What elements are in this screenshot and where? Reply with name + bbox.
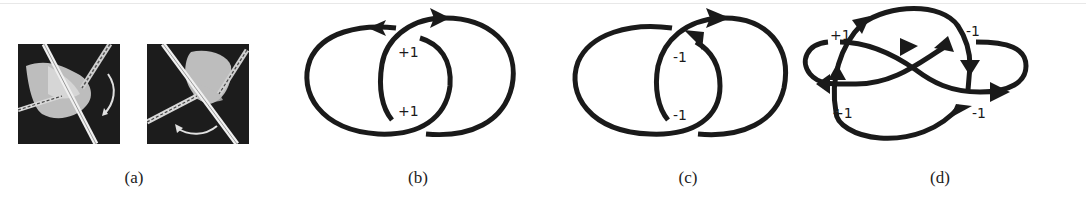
arrow-mid-left-icon xyxy=(900,38,918,56)
photo-a-right xyxy=(147,44,249,144)
crossing-label-top: +1 xyxy=(398,44,419,60)
photo-a-right-drawing xyxy=(147,44,249,144)
panel-b: +1 +1 (b) xyxy=(260,0,520,201)
caption-c: (c) xyxy=(679,168,698,188)
caption-b: (b) xyxy=(408,168,428,188)
crossing-label-bottom-right: -1 xyxy=(972,105,986,121)
crossing-label-bottom: -1 xyxy=(673,107,687,123)
panel-d: +1 -1 +1 -1 (d) xyxy=(800,0,1086,201)
crossing-label-top-right: -1 xyxy=(966,23,980,39)
arrow-left-loop-icon xyxy=(684,30,704,50)
panel-a: (a) xyxy=(0,0,260,201)
arrow-up-icon xyxy=(828,64,846,80)
arrow-bottom-right-icon xyxy=(950,104,972,118)
crossing-label-bottom-left: +1 xyxy=(832,105,853,121)
crossing-label-top: -1 xyxy=(673,49,687,65)
crossing-label-bottom: +1 xyxy=(398,103,419,119)
crossing-label-top-left: +1 xyxy=(830,27,851,43)
hopf-link-positive-diagram: +1 +1 xyxy=(260,0,520,201)
caption-d: (d) xyxy=(930,168,950,188)
hopf-link-negative-diagram: -1 -1 xyxy=(520,0,800,201)
caption-a: (a) xyxy=(125,168,144,188)
arrow-right-icon xyxy=(990,82,1010,102)
arrow-right-down-icon xyxy=(960,60,980,76)
arrow-left-icon xyxy=(816,74,830,94)
photo-a-left-drawing xyxy=(18,44,120,144)
panel-c: -1 -1 (c) xyxy=(520,0,800,201)
photo-a-left xyxy=(18,44,120,144)
